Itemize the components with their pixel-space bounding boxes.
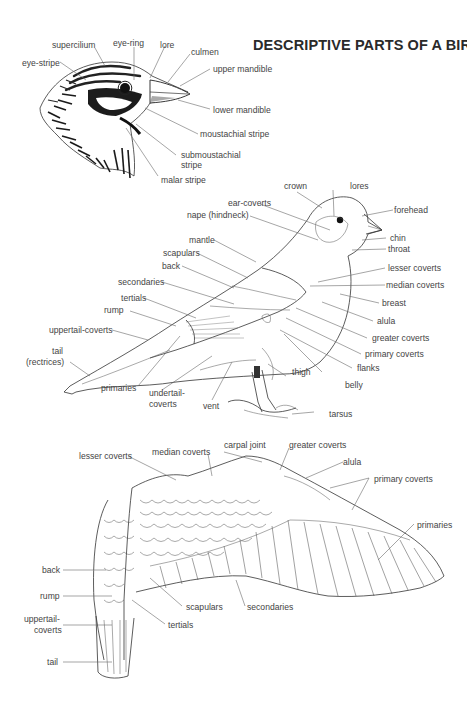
label-wing-greater-coverts: greater coverts [289, 440, 346, 450]
label-vent: vent [203, 401, 219, 411]
label-median-coverts: median coverts [386, 280, 444, 290]
label-alula: alula [377, 316, 395, 326]
label-eye-stripe: eye-stripe [22, 58, 60, 68]
label-crown: crown [284, 181, 307, 191]
label-wing-rump: rump [40, 591, 60, 601]
label-wing-uppertail-coverts-line2: coverts [34, 625, 62, 635]
label-tarsus: tarsus [329, 409, 352, 419]
label-undertail-coverts: undertail- [149, 388, 185, 398]
label-tail: tail [52, 346, 63, 356]
label-submoustachial-stripe: submoustachial [181, 150, 241, 160]
label-culmen: culmen [191, 47, 219, 57]
label-lower-mandible: lower mandible [213, 105, 271, 115]
label-submoustachial-stripe-line2: stripe [181, 160, 202, 170]
label-lores: lores [350, 181, 369, 191]
label-chin: chin [390, 233, 406, 243]
label-wing-tail: tail [47, 657, 58, 667]
label-primary-coverts: primary coverts [365, 349, 424, 359]
label-wing-alula: alula [343, 457, 361, 467]
label-belly: belly [345, 380, 363, 390]
label-tertials: tertials [121, 293, 146, 303]
label-lesser-coverts: lesser coverts [388, 263, 441, 273]
label-rump: rump [104, 305, 124, 315]
label-wing-uppertail-coverts: uppertail- [24, 614, 60, 624]
label-secondaries: secondaries [118, 277, 164, 287]
head-illustration [40, 62, 190, 178]
label-upper-mandible: upper mandible [213, 64, 272, 74]
bird-anatomy-page: DESCRIPTIVE PARTS OF A BIRD [0, 0, 467, 714]
label-wing-back: back [42, 565, 60, 575]
label-wing-tertials: tertials [168, 620, 193, 630]
label-lore: lore [160, 40, 174, 50]
label-nape: nape (hindneck) [187, 210, 249, 220]
label-wing-primaries: primaries [417, 520, 452, 530]
label-ear-coverts: ear-coverts [228, 198, 271, 208]
label-back: back [162, 261, 180, 271]
label-wing-median-coverts: median coverts [152, 447, 210, 457]
label-carpal-joint: carpal joint [224, 440, 266, 450]
label-wing-secondaries: secondaries [247, 602, 293, 612]
label-moustachial-stripe: moustachial stripe [200, 129, 269, 139]
label-malar-stripe: malar stripe [161, 175, 206, 185]
flying-leader-lines [63, 448, 414, 662]
label-wing-lesser-coverts: lesser coverts [79, 451, 132, 461]
label-throat: throat [388, 244, 410, 254]
flying-bird-illustration [94, 456, 444, 678]
label-wing-primary-coverts: primary coverts [374, 474, 433, 484]
label-thigh: thigh [292, 367, 311, 377]
label-uppertail-coverts: uppertail-coverts [49, 325, 113, 335]
label-scapulars: scapulars [163, 248, 200, 258]
label-tail-rectrices: (rectrices) [26, 357, 64, 367]
label-mantle: mantle [189, 235, 215, 245]
label-wing-scapulars: scapulars [186, 602, 223, 612]
label-undertail-coverts-line2: coverts [149, 399, 177, 409]
label-forehead: forehead [394, 205, 428, 215]
label-breast: breast [382, 298, 406, 308]
label-greater-coverts: greater coverts [372, 333, 429, 343]
label-supercilium: supercilium [52, 40, 95, 50]
label-eye-ring: eye-ring [113, 38, 144, 48]
label-primaries: primaries [101, 383, 136, 393]
label-flanks: flanks [357, 363, 379, 373]
